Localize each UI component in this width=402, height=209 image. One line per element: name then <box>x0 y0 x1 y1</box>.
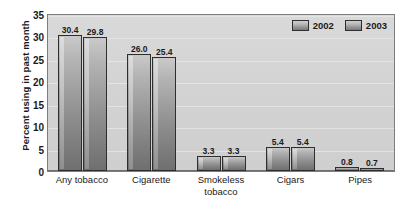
bar-pair: 3.33.3 <box>186 15 255 171</box>
y-axis-tick: 15 <box>33 99 44 110</box>
bar[interactable]: 0.7 <box>360 168 384 171</box>
bar-value-label: 0.7 <box>366 158 378 168</box>
bar-pair: 26.025.4 <box>117 15 186 171</box>
bar-value-label: 3.3 <box>203 146 215 156</box>
x-axis-label: Pipes <box>325 174 395 197</box>
bar[interactable]: 29.8 <box>83 37 107 171</box>
y-axis-tick: 5 <box>38 144 44 155</box>
bar[interactable]: 3.3 <box>197 156 221 171</box>
bar-value-label: 25.4 <box>156 47 173 57</box>
bar-group: 5.45.4 <box>256 15 325 171</box>
legend-item[interactable]: 2003 <box>345 20 387 31</box>
y-axis-tick: 0 <box>38 167 44 178</box>
bar-value-label: 30.4 <box>62 25 79 35</box>
y-axis-tick: 10 <box>33 122 44 133</box>
legend-item[interactable]: 2002 <box>292 20 334 31</box>
legend-swatch-icon <box>345 20 362 31</box>
y-axis-tick: 20 <box>33 77 44 88</box>
x-axis-label: Cigars <box>256 174 326 197</box>
bar[interactable]: 5.4 <box>266 147 290 171</box>
bar[interactable]: 3.3 <box>222 156 246 171</box>
bar[interactable]: 26.0 <box>127 54 151 171</box>
bar-value-label: 29.8 <box>87 27 104 37</box>
y-axis-tick: 25 <box>33 54 44 65</box>
bar-pair: 30.429.8 <box>48 15 117 171</box>
bar-value-label: 26.0 <box>131 44 148 54</box>
bar[interactable]: 30.4 <box>58 35 82 171</box>
bar[interactable]: 5.4 <box>291 147 315 171</box>
legend-label: 2003 <box>366 20 387 31</box>
bar-pair: 0.80.7 <box>325 15 394 171</box>
bar-value-label: 3.3 <box>228 146 240 156</box>
x-axis-label: Smokeless tobacco <box>186 174 256 197</box>
bar-groups: 30.429.826.025.43.33.35.45.40.80.7 <box>48 15 394 171</box>
y-axis-tick-labels: 05101520253035 <box>24 14 44 172</box>
bar-group: 26.025.4 <box>117 15 186 171</box>
bar[interactable]: 25.4 <box>152 57 176 171</box>
bar-chart: Percent using in past month 051015202530… <box>0 0 402 209</box>
x-axis-category-labels: Any tobaccoCigaretteSmokeless tobaccoCig… <box>47 174 395 197</box>
x-axis-label: Cigarette <box>117 174 187 197</box>
y-axis-tick: 30 <box>33 32 44 43</box>
legend-label: 2002 <box>313 20 334 31</box>
plot-area: 30.429.826.025.43.33.35.45.40.80.7 20022… <box>47 14 395 172</box>
y-axis-tick: 35 <box>33 10 44 21</box>
legend-swatch-icon <box>292 20 309 31</box>
bar-group: 3.33.3 <box>186 15 255 171</box>
bar-value-label: 0.8 <box>341 157 353 167</box>
bar-value-label: 5.4 <box>297 137 309 147</box>
bar-group: 0.80.7 <box>325 15 394 171</box>
bar[interactable]: 0.8 <box>335 167 359 171</box>
legend: 20022003 <box>292 20 387 31</box>
bar-pair: 5.45.4 <box>256 15 325 171</box>
bar-group: 30.429.8 <box>48 15 117 171</box>
x-axis-label: Any tobacco <box>47 174 117 197</box>
bar-value-label: 5.4 <box>272 137 284 147</box>
